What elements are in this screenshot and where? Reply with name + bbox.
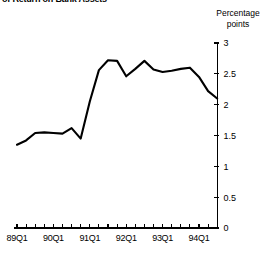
x-axis-tick-label: 92Q1 [116, 233, 137, 243]
x-axis-tick-label: 90Q1 [43, 233, 64, 243]
chart-container: of Return on Bank Assets Percentage poin… [0, 0, 268, 257]
y-axis-tick-label: 2 [224, 100, 229, 110]
x-axis-tick-label: 93Q1 [152, 233, 173, 243]
y-axis-tick-label: 3 [224, 38, 229, 48]
x-axis: 89Q190Q191Q192Q193Q194Q1 [7, 224, 218, 243]
y-axis-tick-label: 2.5 [224, 69, 237, 79]
chart-plot: 00.511.522.53 89Q190Q191Q192Q193Q194Q1 [0, 0, 268, 257]
y-axis-tick-label: 0 [224, 223, 229, 233]
data-series-line [17, 60, 217, 144]
y-axis: 00.511.522.53 [214, 38, 237, 233]
y-axis-tick-label: 1.5 [224, 131, 237, 141]
x-axis-tick-label: 94Q1 [189, 233, 210, 243]
x-axis-tick-label: 89Q1 [7, 233, 28, 243]
y-axis-tick-label: 1 [224, 162, 229, 172]
y-axis-tick-label: 0.5 [224, 193, 237, 203]
x-axis-tick-label: 91Q1 [79, 233, 100, 243]
